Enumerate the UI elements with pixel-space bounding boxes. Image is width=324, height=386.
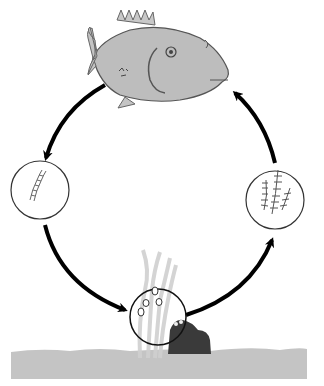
arrow-left-to-bottom	[45, 225, 125, 310]
fish-body	[93, 27, 228, 101]
larva-stage-circle	[11, 161, 69, 219]
arrow-bottom-to-right	[186, 240, 272, 315]
arrow-right-to-adult	[235, 93, 275, 163]
arrow-adult-to-left	[46, 85, 105, 158]
adult-fish	[88, 10, 229, 108]
rock	[168, 320, 211, 354]
dorsal-fin	[117, 10, 155, 25]
life-cycle-diagram	[0, 0, 324, 386]
juvenile-stage-circle	[246, 170, 304, 229]
